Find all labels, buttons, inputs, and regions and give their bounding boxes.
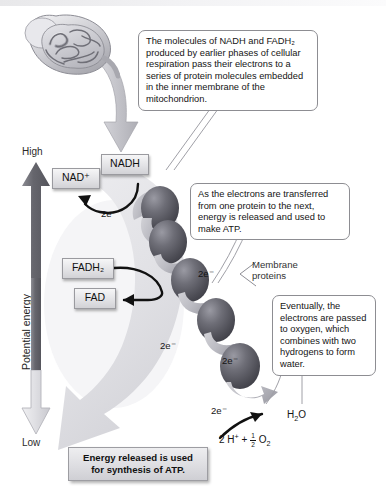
membrane-proteins-label: Membrane proteins — [252, 259, 298, 281]
fraction-denominator: 2 — [250, 441, 256, 448]
atp-banner-line2: for synthesis of ATP. — [69, 464, 207, 476]
fadh2-to-fad-arrow — [110, 262, 172, 306]
proton-charge: + — [235, 432, 239, 441]
potential-energy-up-arrow — [20, 160, 52, 280]
callout-2-text: As the electrons are transferred from on… — [198, 189, 328, 234]
mitochondrion-icon — [12, 6, 120, 80]
water-product-label: H2O — [287, 409, 306, 423]
callout-nadh-fadh2: The molecules of NADH and FADH₂ produced… — [138, 30, 318, 111]
fraction-numerator: 1 — [250, 432, 256, 440]
callout-energy-atp: As the electrons are transferred from on… — [190, 183, 350, 240]
electron-label-1: 2e⁻ — [101, 208, 117, 219]
membrane-proteins-line1: Membrane — [252, 259, 298, 270]
electron-label-4: 2e⁻ — [160, 340, 176, 351]
electron-label-3: 2e⁻ — [198, 268, 214, 279]
chip-nadh: NADH — [101, 154, 149, 175]
callout-oxygen-water: Eventually, the electrons are passed to … — [272, 295, 376, 376]
chip-fadh2-label: FADH₂ — [72, 261, 104, 273]
membrane-proteins-line2: proteins — [252, 270, 298, 281]
callout-1-text: The molecules of NADH and FADH₂ produced… — [146, 36, 303, 104]
chip-nad-plus: NAD⁺ — [52, 168, 100, 189]
figure-root: The molecules of NADH and FADH₂ produced… — [0, 0, 386, 495]
chip-fad-label: FAD — [85, 291, 105, 303]
chip-fadh2: FADH₂ — [62, 258, 114, 279]
electron-label-5: 2e⁻ — [222, 355, 238, 366]
chip-nad-plus-label: NAD⁺ — [62, 171, 90, 183]
callout-3-text: Eventually, the electrons are passed to … — [280, 301, 366, 369]
half-fraction: 1 2 — [250, 432, 256, 447]
potential-energy-axis-shaft — [31, 278, 41, 378]
electron-label-6: 2e⁻ — [211, 405, 227, 416]
chip-fad: FAD — [74, 288, 116, 309]
atp-summary-banner: Energy released is used for synthesis of… — [68, 447, 208, 481]
reactants-prefix: 2 H — [219, 434, 235, 445]
chip-nadh-label: NADH — [110, 157, 140, 169]
equation-plus: + — [242, 434, 248, 445]
potential-energy-down-arrow — [20, 370, 52, 436]
reactants-equation: 2 H+ + 1 2 O2 — [219, 432, 270, 448]
atp-banner-line1: Energy released is used — [69, 452, 207, 464]
oxygen-subscript: 2 — [266, 439, 270, 448]
